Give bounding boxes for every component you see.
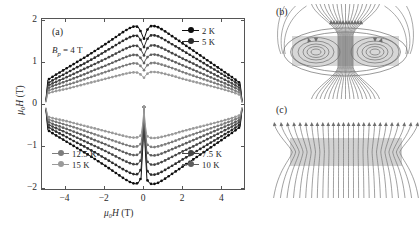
legend-item: 10 K [182,159,222,170]
field-direction-arrow [326,122,330,126]
y-tick [41,146,45,147]
field-line [274,124,293,198]
panel-b: (b) [272,2,419,102]
field-direction-arrow [378,122,382,126]
x-tick-top [221,18,222,22]
x-tick-label: −2 [97,193,111,203]
field-direction-arrow [347,122,351,126]
x-axis-label-symbol: μ₀H [104,208,119,218]
y-tick [41,104,45,105]
field-direction-arrow [409,122,413,126]
field-direction-arrow [384,122,388,126]
x-tick-top [65,18,66,22]
x-axis-label: μ₀H (T) [104,208,133,218]
legend-marker-icon [182,26,199,35]
field-direction-arrow [310,122,314,126]
field-direction-arrow [415,122,419,127]
legend-label: 2 K [202,26,215,36]
field-direction-arrow [292,122,296,126]
y-tick-right [241,146,245,147]
x-tick-top [182,18,183,22]
field-direction-arrow [272,122,276,127]
series-markers [48,71,241,96]
field-direction-arrow [279,122,283,126]
x-tick-label: 2 [175,193,189,203]
field-direction-arrow [373,122,377,126]
y-tick-label: 1 [21,56,37,66]
panel-c-tag: (c) [276,104,287,115]
x-tick [104,186,105,190]
field-direction-arrow [342,122,346,126]
legend-item: 12.5 K [52,148,97,159]
field-direction-arrow [286,122,290,126]
field-direction-arrow [332,122,336,126]
y-tick [41,20,45,21]
legend-bottom-right: 7.5 K10 K [182,148,222,170]
y-axis-label-symbol: μ₀H [15,100,25,115]
legend-marker-icon [52,149,69,158]
legend-label: 5 K [202,37,215,47]
x-tick-label: 0 [136,193,150,203]
legend-marker-icon [182,149,199,158]
legend-label: 7.5 K [202,149,222,159]
field-direction-arrow [367,122,371,126]
series-line [46,45,242,102]
legend-top-right: 2 K5 K [182,25,215,47]
field-direction-arrow [352,122,356,126]
y-tick-right [241,104,245,105]
x-tick [221,186,222,190]
legend-bottom-left: 12.5 K15 K [52,148,97,170]
y-tick-right [241,20,245,21]
legend-item: 2 K [182,25,215,36]
x-tick [182,186,183,190]
legend-label: 12.5 K [72,149,97,159]
x-axis-label-unit: (T) [121,208,133,218]
field-direction-arrow [357,122,361,126]
field-direction-arrow [390,122,394,126]
field-direction-arrow [337,122,341,126]
y-tick-label: −1 [21,140,37,150]
x-tick [143,186,144,190]
field-direction-arrow [304,122,308,126]
legend-item: 15 K [52,159,97,170]
field-direction-arrow [362,122,366,126]
x-tick [65,186,66,190]
y-tick-label: −2 [21,182,37,192]
field-direction-arrow [396,122,400,126]
field-line-return [407,6,414,54]
legend-marker-icon [52,160,69,169]
y-tick-right [241,188,245,189]
x-tick-top [143,18,144,22]
y-tick-label: 2 [21,14,37,24]
y-axis-label: μ₀H (T) [15,68,25,132]
panel-b-field-diagram [272,2,419,102]
panel-b-tag: (b) [276,6,288,17]
legend-item: 7.5 K [182,148,222,159]
legend-marker-icon [182,160,199,169]
x-tick-top [104,18,105,22]
field-direction-arrow [402,122,406,126]
legend-label: 10 K [202,160,220,170]
y-tick-right [241,62,245,63]
panel-c-field-diagram [272,102,419,206]
y-axis-label-unit: (T) [15,85,25,97]
legend-marker-icon [182,37,199,46]
y-tick [41,62,45,63]
field-direction-arrow [321,122,325,126]
legend-label: 15 K [72,160,90,170]
panel-a: (a) Bp = 4 T −4−2024−2−1012 μ₀H (T) μ₀H … [0,0,272,227]
legend-item: 5 K [182,36,215,47]
x-tick-label: 4 [214,193,228,203]
field-direction-arrow [298,122,302,126]
field-line [400,124,419,198]
figure-root: (a) Bp = 4 T −4−2024−2−1012 μ₀H (T) μ₀H … [0,0,419,227]
x-tick-label: −4 [58,193,72,203]
y-tick [41,188,45,189]
panel-c: (c) [272,102,419,206]
field-direction-arrow [315,122,319,126]
